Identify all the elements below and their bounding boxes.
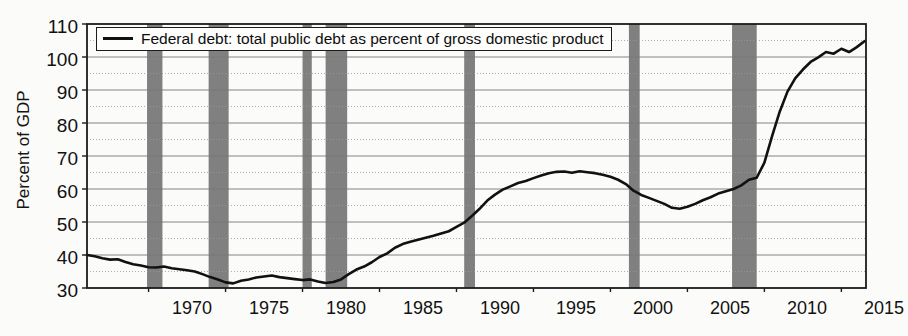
y-tick-label-30: 30: [16, 281, 78, 300]
legend-line-icon: [103, 37, 133, 40]
y-tick-label-110: 110: [16, 17, 78, 36]
y-tick-label-80: 80: [16, 116, 78, 135]
x-tick-label-2005: 2005: [690, 299, 770, 317]
x-tick-label-1990: 1990: [460, 299, 540, 317]
y-tick-label-100: 100: [16, 50, 78, 69]
y-tick-label-90: 90: [16, 83, 78, 102]
x-tick-label-1980: 1980: [306, 299, 386, 317]
x-tick-label-1970: 1970: [152, 299, 232, 317]
x-tick-label-2010: 2010: [767, 299, 847, 317]
y-tick-label-60: 60: [16, 182, 78, 201]
x-tick-label-1995: 1995: [536, 299, 616, 317]
legend-entry-label: Federal debt: total public debt as perce…: [141, 30, 604, 47]
x-tick-label-1975: 1975: [229, 299, 309, 317]
x-tick-label-2015: 2015: [844, 299, 908, 317]
y-tick-label-70: 70: [16, 149, 78, 168]
y-tick-label-40: 40: [16, 248, 78, 267]
y-tick-label-50: 50: [16, 215, 78, 234]
x-tick-label-1985: 1985: [383, 299, 463, 317]
chart-legend: Federal debt: total public debt as perce…: [96, 27, 612, 51]
x-tick-label-2000: 2000: [613, 299, 693, 317]
